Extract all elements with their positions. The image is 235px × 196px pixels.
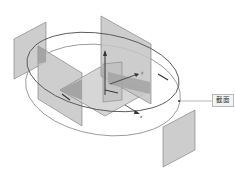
axis-x-label: x xyxy=(140,114,143,119)
bottom-right-detached-plane xyxy=(163,110,195,167)
callout-anchor xyxy=(178,100,180,102)
path-arrow-right xyxy=(158,74,168,80)
section-callout-label: 截面 xyxy=(216,96,230,104)
section-callout: 截面 xyxy=(212,94,234,107)
section-diagram: y x xyxy=(0,0,235,196)
